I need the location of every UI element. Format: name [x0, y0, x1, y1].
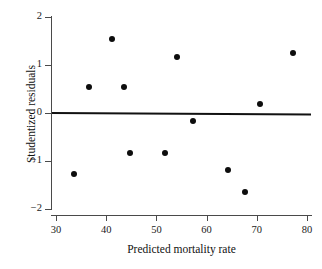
y-tick-mark	[45, 113, 52, 114]
x-tick-label: 70	[244, 224, 270, 235]
y-tick-mark	[45, 209, 52, 210]
data-point	[225, 167, 231, 173]
x-tick-label: 30	[43, 224, 69, 235]
plot-area: 210−1−2 304050607080 Predicted mortality…	[0, 0, 322, 269]
x-tick-label: 60	[194, 224, 220, 235]
data-point	[162, 150, 168, 156]
x-tick-mark	[156, 215, 157, 221]
zero-reference-line	[52, 112, 311, 116]
data-point	[71, 171, 77, 177]
x-tick-label: 40	[93, 224, 119, 235]
data-point	[127, 150, 133, 156]
data-point	[242, 189, 248, 195]
data-point	[174, 54, 180, 60]
y-tick-mark	[45, 65, 52, 66]
residual-scatter-plot: 210−1−2 304050607080 Predicted mortality…	[0, 0, 322, 269]
data-point	[86, 84, 92, 90]
data-point	[190, 118, 196, 124]
x-axis-line	[51, 215, 312, 216]
x-tick-label: 80	[294, 224, 320, 235]
data-point	[257, 101, 263, 107]
data-point	[109, 36, 115, 42]
y-axis-title: Studentized residuals	[25, 34, 37, 194]
x-axis-title: Predicted mortality rate	[51, 243, 312, 255]
x-tick-label: 50	[143, 224, 169, 235]
data-point	[121, 84, 127, 90]
x-tick-mark	[257, 215, 258, 221]
y-tick-label: −2	[20, 202, 42, 213]
x-tick-mark	[106, 215, 107, 221]
x-tick-mark	[56, 215, 57, 221]
y-tick-mark	[45, 17, 52, 18]
data-point	[290, 50, 296, 56]
x-tick-mark	[207, 215, 208, 221]
x-tick-mark	[307, 215, 308, 221]
y-tick-mark	[45, 161, 52, 162]
y-tick-label: 2	[20, 10, 42, 21]
